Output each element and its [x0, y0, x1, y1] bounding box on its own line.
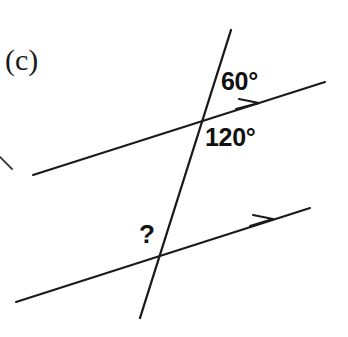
- upper-parallel-line: [33, 82, 325, 175]
- adjacent-figure-stray-mark: [0, 157, 12, 169]
- transversal-line: [140, 30, 231, 318]
- angle-label-60: 60°: [221, 69, 258, 94]
- part-label: (c): [5, 45, 38, 75]
- angle-label-unknown: ?: [139, 221, 155, 247]
- figure-canvas: [0, 0, 348, 337]
- angle-label-120: 120°: [205, 125, 256, 150]
- geometry-figure: (c) 60° 120° ?: [0, 0, 348, 337]
